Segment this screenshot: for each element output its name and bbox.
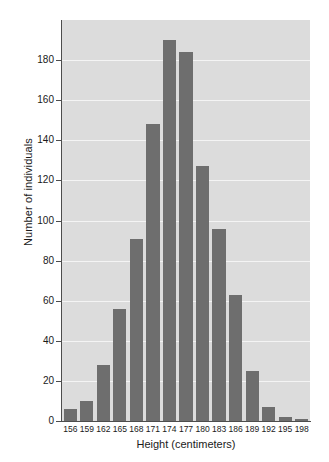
- y-axis-title: Number of individuals: [22, 92, 34, 292]
- histogram-bar: [163, 40, 176, 421]
- histogram-bar: [80, 401, 93, 421]
- y-tick-label: 0: [8, 416, 54, 426]
- histogram-bar: [97, 365, 110, 421]
- histogram-bar: [212, 229, 225, 421]
- histogram-bar: [246, 371, 259, 421]
- y-tick-label: 20: [8, 376, 54, 386]
- y-tick-mark: [56, 100, 62, 101]
- histogram-bar: [229, 295, 242, 421]
- histogram-bar: [113, 309, 126, 421]
- histogram-bar: [64, 409, 77, 421]
- histogram-bar: [179, 52, 192, 421]
- x-axis-title: Height (centimeters): [62, 438, 310, 450]
- y-tick-mark: [56, 60, 62, 61]
- histogram-bar: [130, 239, 143, 421]
- y-tick-label: 40: [8, 336, 54, 346]
- histogram-bar: [196, 166, 209, 421]
- y-tick-mark: [56, 381, 62, 382]
- histogram-figure: 020406080100120140160180 156159162165168…: [0, 0, 329, 462]
- y-tick-mark: [56, 421, 62, 422]
- y-tick-mark: [56, 301, 62, 302]
- x-tick-label: 198: [291, 424, 313, 434]
- y-tick-label: 60: [8, 296, 54, 306]
- x-axis-line: [61, 421, 311, 422]
- plot-area: [62, 20, 310, 421]
- histogram-bar: [262, 407, 275, 421]
- y-tick-mark: [56, 341, 62, 342]
- histogram-bar: [146, 124, 159, 421]
- y-tick-mark: [56, 261, 62, 262]
- y-tick-label: 180: [8, 55, 54, 65]
- y-tick-mark: [56, 221, 62, 222]
- y-tick-mark: [56, 180, 62, 181]
- y-tick-mark: [56, 140, 62, 141]
